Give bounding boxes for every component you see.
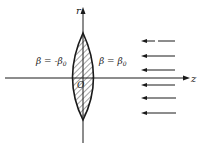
z-axis-label: z <box>190 73 197 84</box>
r-axis-arrowhead-icon <box>81 7 86 14</box>
arrow-left-icon <box>141 83 175 87</box>
z-axis-arrowhead-icon <box>183 76 190 81</box>
arrow-left-icon <box>141 39 175 43</box>
lens-diagram: r z O β = -β0 β = β0 <box>0 0 201 147</box>
r-axis-label: r <box>76 5 82 16</box>
arrow-left-icon <box>141 68 175 72</box>
origin-label: O <box>77 80 85 90</box>
right-boundary-label: β = β0 <box>98 56 127 67</box>
arrow-left-icon <box>141 54 175 58</box>
arrow-left-icon <box>141 96 176 100</box>
z-axis <box>5 76 190 81</box>
arrow-left-icon <box>141 111 176 115</box>
incident-arrows <box>141 39 176 115</box>
left-boundary-label: β = -β0 <box>35 56 67 67</box>
